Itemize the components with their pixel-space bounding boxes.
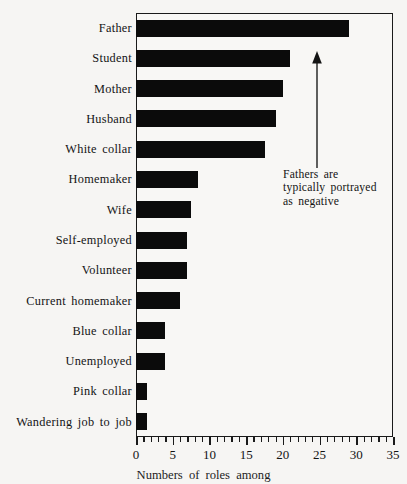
bar-row — [136, 316, 393, 346]
x-axis-tick — [320, 437, 322, 445]
x-axis-minor-tick — [268, 437, 269, 442]
x-axis-minor-tick — [276, 437, 277, 442]
x-axis-tick-label: 25 — [305, 447, 335, 463]
x-axis-minor-tick — [231, 437, 232, 442]
annotation-text: Fathers are typically portrayed as negat… — [283, 168, 401, 208]
bar — [136, 50, 290, 67]
bar-row — [136, 13, 393, 43]
x-axis-minor-tick — [364, 437, 365, 442]
bar-row — [136, 43, 393, 73]
bar-row — [136, 74, 393, 104]
bar-row — [136, 407, 393, 437]
bar — [136, 383, 147, 400]
x-axis-minor-tick — [165, 437, 166, 442]
bar — [136, 353, 165, 370]
x-axis-minor-tick — [217, 437, 218, 442]
x-axis-minor-tick — [202, 437, 203, 442]
annotation-arrow-icon — [307, 50, 327, 168]
x-axis-minor-tick — [298, 437, 299, 442]
bar — [136, 413, 147, 430]
y-axis-tick-label: Father — [0, 13, 132, 43]
x-axis-minor-tick — [239, 437, 240, 442]
bar-row — [136, 255, 393, 285]
y-axis-tick-label: Self-employed — [0, 225, 132, 255]
y-axis-tick-label: Wife — [0, 195, 132, 225]
x-axis-tick-label: 35 — [378, 447, 407, 463]
x-axis-tick-label: 0 — [121, 447, 151, 463]
x-axis-tick — [356, 437, 358, 445]
y-axis-tick-label: Mother — [0, 74, 132, 104]
y-axis-tick-label: Pink collar — [0, 376, 132, 406]
annotation-line-3: as negative — [283, 195, 401, 208]
bar-row — [136, 286, 393, 316]
x-axis-tick — [209, 437, 211, 445]
x-axis-tick-label: 15 — [231, 447, 261, 463]
y-axis-labels: FatherStudentMotherHusbandWhite collarHo… — [0, 13, 132, 437]
bar-row — [136, 346, 393, 376]
x-axis-minor-tick — [187, 437, 188, 442]
bar — [136, 171, 198, 188]
bar — [136, 322, 165, 339]
bar — [136, 80, 283, 97]
x-axis-minor-tick — [151, 437, 152, 442]
bars-container — [136, 13, 393, 437]
x-axis-minor-tick — [195, 437, 196, 442]
bar — [136, 141, 265, 158]
y-axis-tick-label: Student — [0, 43, 132, 73]
bar-row — [136, 376, 393, 406]
x-axis-minor-tick — [342, 437, 343, 442]
bar-row — [136, 104, 393, 134]
bar — [136, 110, 276, 127]
y-axis-tick-label: Homemaker — [0, 164, 132, 194]
x-axis-tick-label: 20 — [268, 447, 298, 463]
x-axis-minor-tick — [334, 437, 335, 442]
bar — [136, 262, 187, 279]
x-axis-tick-label: 10 — [194, 447, 224, 463]
x-axis-minor-tick — [290, 437, 291, 442]
y-axis-tick-label: White collar — [0, 134, 132, 164]
x-axis-tick-label: 5 — [158, 447, 188, 463]
bar — [136, 292, 180, 309]
y-axis-tick-label: Husband — [0, 104, 132, 134]
y-axis-tick-label: Unemployed — [0, 346, 132, 376]
annotation-line-2: typically portrayed — [283, 181, 401, 194]
x-axis-minor-tick — [378, 437, 379, 442]
bar-row — [136, 225, 393, 255]
bar — [136, 201, 191, 218]
x-axis-tick — [136, 437, 138, 445]
x-axis-minor-tick — [386, 437, 387, 442]
x-axis-minor-tick — [327, 437, 328, 442]
y-axis-tick-label: Volunteer — [0, 255, 132, 285]
x-axis-minor-tick — [143, 437, 144, 442]
bar-chart-figure: FatherStudentMotherHusbandWhite collarHo… — [0, 0, 407, 484]
x-axis-minor-tick — [253, 437, 254, 442]
x-axis-caption: Numbers of roles among — [0, 468, 407, 483]
x-axis-minor-tick — [305, 437, 306, 442]
x-axis-minor-tick — [349, 437, 350, 442]
bar-row — [136, 134, 393, 164]
bar — [136, 20, 349, 37]
x-axis-minor-tick — [158, 437, 159, 442]
y-axis-tick-label: Blue collar — [0, 316, 132, 346]
x-axis-minor-tick — [224, 437, 225, 442]
x-axis-minor-tick — [371, 437, 372, 442]
x-axis-tick — [246, 437, 248, 445]
y-axis-tick-label: Wandering job to job — [0, 407, 132, 437]
x-axis-tick — [173, 437, 175, 445]
x-axis-tick — [393, 437, 395, 445]
x-axis-tick-label: 30 — [341, 447, 371, 463]
y-axis-tick-label: Current homemaker — [0, 286, 132, 316]
bar — [136, 232, 187, 249]
x-axis-tick — [283, 437, 285, 445]
annotation-line-1: Fathers are — [283, 168, 401, 181]
x-axis-minor-tick — [180, 437, 181, 442]
x-axis-minor-tick — [261, 437, 262, 442]
x-axis-minor-tick — [312, 437, 313, 442]
